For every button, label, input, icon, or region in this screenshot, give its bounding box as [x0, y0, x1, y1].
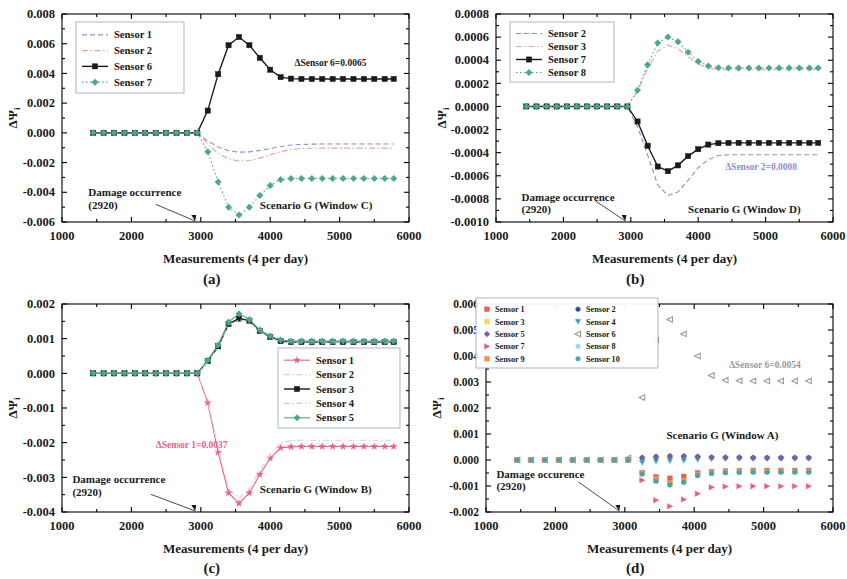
x-tick-label: 6000	[820, 519, 845, 533]
legend-marker	[575, 306, 580, 311]
y-tick-label: -0.0010	[450, 215, 489, 229]
marker-sensor-10	[556, 457, 561, 462]
marker-sensor-7	[390, 175, 397, 182]
marker-sensor-5	[750, 454, 756, 460]
y-axis-label-text: ΔΨi	[5, 107, 22, 128]
marker-sensor-6	[340, 76, 345, 81]
y-tick-label: 0.0002	[454, 77, 488, 91]
marker-sensor-6	[309, 76, 314, 81]
legend-label-sensor-2: Sensor 2	[316, 369, 354, 380]
marker-sensor-7	[329, 175, 336, 182]
marker-sensor-7	[776, 140, 781, 145]
damage-occurrence-arrow	[578, 481, 619, 510]
y-tick-label: 0.000	[27, 366, 55, 380]
marker-sensor-7	[655, 164, 660, 169]
y-axis-label: ΔΨi	[434, 107, 451, 128]
marker-sensor-7	[653, 497, 659, 503]
y-tick-label: 0.004	[27, 67, 56, 81]
panel-label-c: (c)	[0, 560, 424, 577]
marker-sensor-7	[371, 175, 378, 182]
y-axis-label: ΔΨi	[429, 397, 446, 418]
marker-sensor-8	[644, 62, 651, 69]
marker-sensor-7	[796, 140, 801, 145]
marker-sensor-10	[750, 469, 755, 474]
legend-label-sensor-6: Sensor 6	[114, 61, 152, 72]
x-tick-label: 4000	[685, 229, 710, 243]
marker-sensor-7	[750, 483, 756, 489]
x-tick-label: 1000	[473, 519, 498, 533]
marker-sensor-7	[709, 484, 715, 490]
marker-sensor-7	[756, 140, 761, 145]
legend-label-sensor-1: Sensor 1	[114, 29, 152, 40]
x-tick-label: 5000	[327, 229, 352, 243]
marker-sensor-10	[764, 469, 769, 474]
x-tick-label: 1000	[50, 229, 75, 243]
marker-sensor-7	[685, 154, 690, 159]
y-tick-label: -0.002	[23, 435, 55, 449]
plot-area-c: -0.004-0.003-0.002-0.0010.0000.0010.0021…	[0, 290, 424, 579]
legend-label-sensor-5: Sensor 5	[316, 412, 354, 423]
marker-sensor-7	[340, 175, 347, 182]
marker-sensor-7	[246, 204, 253, 211]
annotation-text: (2920)	[521, 203, 551, 216]
legend-marker	[575, 344, 580, 349]
legend-label-sensor-4: Sensor 4	[586, 317, 616, 326]
y-tick-label: -0.002	[449, 506, 479, 518]
marker-sensor-7	[639, 477, 645, 483]
annotation-text: (2920)	[88, 199, 118, 212]
marker-sensor-10	[542, 457, 547, 462]
marker-sensor-6	[372, 76, 377, 81]
x-tick-label: 4000	[258, 229, 283, 243]
annotation-text: (2920)	[496, 479, 526, 492]
x-tick-label: 1000	[483, 229, 508, 243]
marker-sensor-7	[764, 483, 770, 489]
series-line-sensor-2	[526, 106, 818, 195]
marker-sensor-7	[778, 483, 784, 489]
marker-sensor-7	[675, 163, 680, 168]
marker-sensor-6	[708, 372, 714, 378]
marker-sensor-6	[236, 34, 241, 39]
marker-sensor-5	[722, 454, 728, 460]
plot-area-a: -0.006-0.004-0.0020.0000.0020.0040.0060.…	[0, 0, 424, 290]
marker-sensor-6	[764, 378, 770, 384]
y-axis-label-text: ΔΨi	[434, 107, 451, 128]
damage-occurrence-arrow	[156, 204, 196, 221]
legend-marker	[484, 306, 489, 311]
legend-label-sensor-6: Sensor 6	[586, 330, 616, 339]
y-tick-label: 0.000	[453, 454, 479, 466]
legend-marker	[92, 64, 97, 69]
x-tick-label: 6000	[820, 229, 845, 243]
legend-label-sensor-3: Sensor 3	[495, 317, 525, 326]
marker-sensor-7	[715, 141, 720, 146]
marker-sensor-1	[390, 442, 397, 449]
marker-sensor-7	[722, 483, 728, 489]
legend-label-sensor-2: Sensor 2	[114, 45, 152, 56]
y-tick-label: 0.001	[27, 331, 55, 345]
y-tick-label: -0.001	[23, 401, 55, 415]
x-tick-label: 2000	[119, 229, 144, 243]
x-tick-label: 4000	[681, 519, 706, 533]
chart-panel-d: -0.002-0.0010.0000.0010.0020.0030.0040.0…	[424, 290, 847, 579]
annotation-text: (2920)	[72, 486, 102, 499]
y-tick-label: 0.0000	[454, 100, 488, 114]
x-tick-label: 6000	[397, 229, 422, 243]
marker-sensor-6	[722, 377, 728, 383]
marker-sensor-5	[778, 454, 784, 460]
marker-sensor-5	[708, 454, 714, 460]
marker-sensor-6	[299, 76, 304, 81]
y-tick-label: 0.006	[27, 37, 55, 51]
marker-sensor-7	[634, 119, 639, 124]
legend-label-sensor-9: Sensor 9	[495, 354, 525, 363]
y-tick-label: 0.001	[453, 428, 479, 440]
marker-sensor-5	[791, 454, 797, 460]
chart-panel-b: -0.0010-0.0008-0.0006-0.0004-0.00020.000…	[424, 0, 847, 290]
marker-sensor-8	[674, 38, 681, 45]
y-tick-label: 0.008	[27, 7, 55, 21]
x-tick-label: 5000	[751, 519, 776, 533]
x-axis-label: Measurements (4 per day)	[163, 251, 308, 266]
marker-sensor-1	[381, 442, 388, 449]
y-tick-label: -0.0002	[450, 123, 489, 137]
legend-label-sensor-3: Sensor 3	[316, 383, 354, 394]
marker-sensor-7	[815, 140, 820, 145]
marker-sensor-8	[715, 64, 722, 71]
